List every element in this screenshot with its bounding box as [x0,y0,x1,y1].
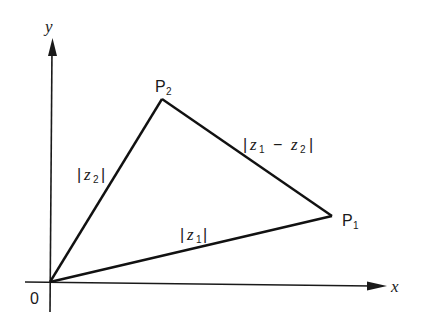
x-axis [25,282,372,286]
svg-text:−: − [273,136,282,153]
point-p1-label: P 1 [342,212,359,231]
svg-text:2: 2 [166,86,172,97]
svg-text:1: 1 [259,144,265,155]
svg-text:z: z [83,165,91,184]
complex-plane-diagram: y x 0 P 2 P 1 | z 2 | | z 1 | | z 1 − z … [0,0,422,326]
y-axis [50,48,52,312]
svg-text:2: 2 [93,174,99,185]
svg-text:z: z [186,225,194,244]
svg-text:|: | [309,136,313,153]
svg-text:|: | [101,166,105,183]
edge-origin-p2 [50,99,162,282]
origin-label: 0 [30,290,39,307]
svg-text:z: z [249,135,257,154]
y-axis-label: y [43,17,53,36]
x-axis-label: x [390,277,399,296]
svg-text:1: 1 [353,220,359,231]
modulus-z1-label: | z 1 | [180,225,207,245]
svg-text:2: 2 [300,144,306,155]
point-p2-label: P 2 [155,78,172,97]
edge-p2-p1 [162,99,332,216]
x-axis-arrow-icon [367,282,387,291]
svg-text:|: | [77,166,81,183]
y-axis-arrow-icon [48,38,57,56]
modulus-difference-label: | z 1 − z 2 | [243,135,313,155]
svg-text:|: | [180,226,184,243]
svg-text:z: z [290,135,298,154]
svg-text:P: P [342,212,353,229]
svg-text:|: | [243,136,247,153]
svg-text:|: | [203,226,207,243]
svg-text:1: 1 [196,234,202,245]
svg-text:P: P [155,78,166,95]
modulus-z2-label: | z 2 | [77,165,105,185]
